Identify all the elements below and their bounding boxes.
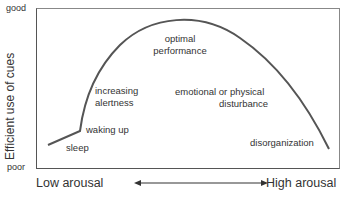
annotation-optimal: optimal xyxy=(145,33,215,44)
x-label-high: High arousal xyxy=(266,176,336,190)
annotation-emotional: emotional or physical xyxy=(175,86,264,97)
annotation-performance: performance xyxy=(135,45,225,56)
annotation-disorganization: disorganization xyxy=(250,137,314,148)
arrow-left-icon xyxy=(134,180,141,186)
annotation-disturbance: disturbance xyxy=(219,98,268,109)
annotation-waking-up: waking up xyxy=(86,124,129,135)
inverted-u-curve xyxy=(0,0,346,198)
y-axis-label: Efficient use of cues xyxy=(3,53,17,160)
y-tick-good: good xyxy=(6,3,26,13)
x-label-low: Low arousal xyxy=(36,176,103,190)
annotation-increasing: increasing xyxy=(95,85,138,96)
annotation-alertness: alertness xyxy=(95,97,134,108)
y-tick-poor: poor xyxy=(7,162,25,172)
annotation-sleep: sleep xyxy=(66,142,89,153)
